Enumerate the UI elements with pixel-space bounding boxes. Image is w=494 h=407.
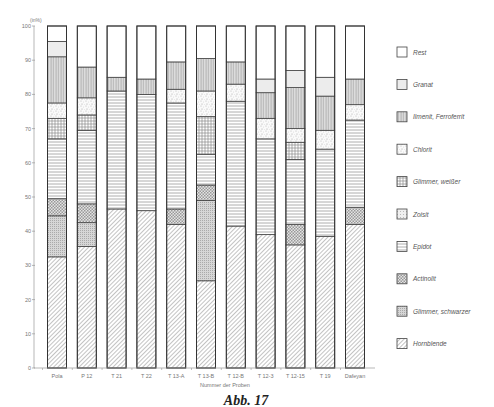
bar-t-22 xyxy=(137,26,156,368)
bar-segment-ilmenit-ferroferrit xyxy=(107,77,126,91)
bar-segment-ilmenit-ferroferrit xyxy=(137,79,156,94)
bar-segment-rest xyxy=(197,26,216,58)
x-category-label: T 13-B xyxy=(198,373,215,379)
y-tick-label: 60 xyxy=(25,160,31,166)
bar-segment-ilmenit-ferroferrit xyxy=(77,67,96,98)
legend-label: Hornblende xyxy=(413,340,447,347)
bar-segment-chlorit xyxy=(256,118,275,139)
x-category-label: T 12-3 xyxy=(258,373,274,379)
legend-item-actinolit: Actinolit xyxy=(397,274,437,284)
y-tick-label: 90 xyxy=(25,57,31,63)
legend-swatch xyxy=(397,274,407,284)
bar-segment-chlorit xyxy=(226,84,245,101)
bar-segment-hornblende xyxy=(48,257,67,368)
legend-item-ilmenit-ferroferrit: Ilmenit, Ferroferrit xyxy=(397,112,465,122)
bar-segment-actinolit xyxy=(77,204,96,223)
legend-item-hornblende: Hornblende xyxy=(397,339,447,349)
legend-swatch xyxy=(397,209,407,219)
x-axis-title: Nummer der Proben xyxy=(200,382,250,388)
legend-label: Glimmer, weißer xyxy=(413,178,461,185)
bar-segment-epidot xyxy=(286,159,305,224)
bar-segment-rest xyxy=(286,26,305,70)
bar-segment-rest xyxy=(167,26,186,62)
bar-segment-hornblende xyxy=(346,224,365,368)
bar-segment-ilmenit-ferroferrit xyxy=(316,96,335,130)
x-axis: PolaP 12T 21T 22T 13-AT 13-BT 12-BT 12-3… xyxy=(34,368,375,379)
bar-segment-actinolit xyxy=(346,207,365,224)
bar-segment-rest xyxy=(226,26,245,62)
y-unit-label: (in%) xyxy=(30,17,42,23)
bar-segment-hornblende xyxy=(197,281,216,368)
x-category-label: T 19 xyxy=(320,373,331,379)
bar-segment-glimmer-schwarzer xyxy=(197,200,216,280)
y-axis: 0102030405060708090100 xyxy=(22,23,35,371)
bar-segment-ilmenit-ferroferrit xyxy=(226,62,245,84)
legend-item-chlorit: Chlorit xyxy=(397,144,433,154)
y-tick-label: 50 xyxy=(25,194,31,200)
legend-label: Granat xyxy=(413,81,434,88)
bar-t-13-b xyxy=(197,26,216,368)
figure-caption: Abb. 17 xyxy=(223,393,269,407)
bar-segment-hornblende xyxy=(256,235,275,368)
bar-dafeyan xyxy=(346,26,365,368)
bar-segment-hornblende xyxy=(316,236,335,368)
bars xyxy=(48,26,365,368)
legend-swatch xyxy=(397,112,407,122)
bar-segment-rest xyxy=(346,26,365,79)
bar-segment-hornblende xyxy=(77,247,96,368)
legend-swatch xyxy=(397,47,407,57)
bar-segment-glimmer-schwarzer xyxy=(77,223,96,247)
bar-t-19 xyxy=(316,26,335,368)
bar-segment-glimmer-wei-er xyxy=(286,142,305,159)
bar-segment-chlorit xyxy=(48,103,67,118)
legend-swatch xyxy=(397,79,407,89)
bar-segment-ilmenit-ferroferrit xyxy=(197,58,216,90)
legend-label: Ilmenit, Ferroferrit xyxy=(413,113,465,120)
x-category-label: T 12-B xyxy=(228,373,245,379)
legend: RestGranatIlmenit, FerroferritChloritGli… xyxy=(397,47,471,349)
stacked-bar-chart: 0102030405060708090100 PolaP 12T 21T 22T… xyxy=(0,0,494,407)
x-category-label: Dafeyan xyxy=(345,373,366,379)
bar-segment-ilmenit-ferroferrit xyxy=(256,93,275,119)
legend-label: Actinolit xyxy=(412,275,437,282)
bar-segment-epidot xyxy=(137,94,156,210)
bar-segment-epidot xyxy=(256,139,275,235)
bar-segment-granat xyxy=(286,70,305,87)
legend-swatch xyxy=(397,144,407,154)
bar-segment-glimmer-wei-er xyxy=(48,118,67,139)
bar-segment-epidot xyxy=(167,103,186,209)
bar-segment-chlorit xyxy=(197,91,216,117)
legend-label: Epidot xyxy=(413,243,433,251)
bar-segment-chlorit xyxy=(77,98,96,115)
bar-segment-chlorit xyxy=(167,89,186,103)
legend-label: Rest xyxy=(413,49,428,56)
legend-swatch xyxy=(397,177,407,187)
bar-t-12-b xyxy=(226,26,245,368)
bar-segment-glimmer-wei-er xyxy=(197,117,216,155)
bar-segment-granat xyxy=(316,77,335,96)
legend-label: Chlorit xyxy=(413,146,433,153)
bar-segment-epidot xyxy=(197,154,216,185)
bar-segment-epidot xyxy=(316,149,335,236)
y-tick-label: 100 xyxy=(22,23,31,29)
y-tick-label: 0 xyxy=(28,365,31,371)
bar-segment-chlorit xyxy=(316,130,335,149)
bar-segment-ilmenit-ferroferrit xyxy=(346,79,365,105)
legend-item-rest: Rest xyxy=(397,47,428,57)
legend-item-granat: Granat xyxy=(397,79,434,89)
y-tick-label: 30 xyxy=(25,262,31,268)
bar-segment-rest xyxy=(316,26,335,77)
bar-segment-actinolit xyxy=(197,185,216,200)
y-tick-label: 10 xyxy=(25,331,31,337)
x-category-label: T 21 xyxy=(111,373,122,379)
bar-segment-chlorit xyxy=(346,105,365,120)
bar-t-12-15 xyxy=(286,26,305,368)
legend-item-glimmer-schwarzer: Glimmer, schwarzer xyxy=(397,306,471,316)
legend-swatch xyxy=(397,241,407,251)
bar-segment-hornblende xyxy=(107,209,126,368)
x-category-label: T 12-15 xyxy=(286,373,305,379)
bar-t-13-a xyxy=(167,26,186,368)
bar-segment-actinolit xyxy=(48,199,67,216)
bar-segment-ilmenit-ferroferrit xyxy=(167,62,186,89)
bar-segment-ilmenit-ferroferrit xyxy=(48,57,67,103)
